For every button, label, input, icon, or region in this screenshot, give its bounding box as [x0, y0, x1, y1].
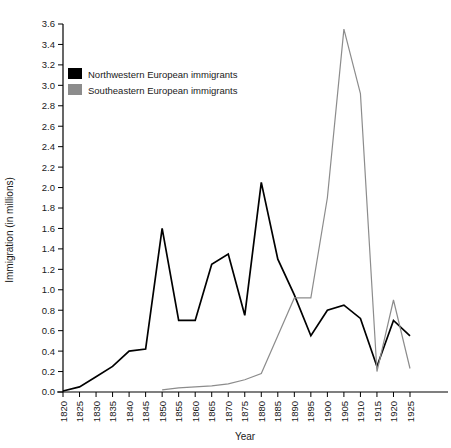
y-axis-tick-label: 2.2 — [42, 162, 55, 173]
x-axis-tick-label: 1835 — [107, 401, 118, 422]
x-axis-title: Year — [235, 431, 256, 442]
x-axis-tick-label: 1875 — [239, 401, 250, 422]
x-axis-tick-label: 1865 — [206, 401, 217, 422]
y-axis-tick-label: 1.6 — [42, 223, 55, 234]
y-axis-tick-label: 0.4 — [42, 346, 55, 357]
x-axis-tick-label: 1825 — [74, 401, 85, 422]
x-axis-tick-label: 1845 — [140, 401, 151, 422]
x-axis-tick-label: 1895 — [305, 401, 316, 422]
x-axis-tick-label: 1855 — [173, 401, 184, 422]
y-axis: 0.00.20.40.60.81.01.21.41.61.82.02.22.42… — [42, 18, 63, 397]
y-axis-tick-label: 3.2 — [42, 59, 55, 70]
x-axis-tick-label: 1900 — [322, 401, 333, 422]
y-axis-tick-label: 3.0 — [42, 80, 55, 91]
y-axis-tick-label: 2.0 — [42, 182, 55, 193]
legend-swatch-1 — [68, 84, 82, 95]
series-line-1 — [162, 29, 410, 390]
x-axis-tick-label: 1830 — [91, 401, 102, 422]
y-axis-tick-label: 1.8 — [42, 202, 55, 213]
x-axis-tick-label: 1870 — [223, 401, 234, 422]
y-axis-tick-label: 0.0 — [42, 386, 55, 397]
series-line-0 — [63, 182, 410, 391]
x-axis-tick-label: 1910 — [355, 401, 366, 422]
x-axis-tick-label: 1920 — [388, 401, 399, 422]
x-axis-tick-label: 1860 — [190, 401, 201, 422]
legend-swatch-0 — [68, 68, 82, 79]
x-axis-tick-label: 1880 — [256, 401, 267, 422]
chart-legend: Northwestern European immigrantsSoutheas… — [68, 68, 238, 96]
y-axis-tick-label: 2.8 — [42, 100, 55, 111]
x-axis-tick-label: 1915 — [372, 401, 383, 422]
x-axis-tick-label: 1820 — [58, 401, 69, 422]
x-axis-tick-label: 1890 — [289, 401, 300, 422]
y-axis-tick-label: 3.4 — [42, 39, 55, 50]
x-axis-tick-label: 1850 — [157, 401, 168, 422]
legend-label-0: Northwestern European immigrants — [88, 69, 238, 80]
y-axis-tick-label: 1.4 — [42, 243, 55, 254]
y-axis-tick-label: 2.6 — [42, 121, 55, 132]
y-axis-tick-label: 1.2 — [42, 264, 55, 275]
immigration-line-chart: 0.00.20.40.60.81.01.21.41.61.82.02.22.42… — [0, 0, 451, 448]
x-axis-tick-label: 1905 — [339, 401, 350, 422]
legend-label-1: Southeastern European immigrants — [88, 85, 238, 96]
y-axis-tick-label: 0.8 — [42, 305, 55, 316]
y-axis-tick-label: 0.2 — [42, 366, 55, 377]
y-axis-tick-label: 0.6 — [42, 325, 55, 336]
x-axis-tick-label: 1885 — [272, 401, 283, 422]
x-axis-tick-label: 1925 — [405, 401, 416, 422]
y-axis-tick-label: 1.0 — [42, 284, 55, 295]
x-axis: 1820182518301835184018451850185518601865… — [57, 392, 448, 422]
data-series-group — [63, 29, 410, 391]
chart-canvas: 0.00.20.40.60.81.01.21.41.61.82.02.22.42… — [0, 0, 451, 448]
y-axis-tick-label: 2.4 — [42, 141, 55, 152]
y-axis-tick-label: 3.6 — [42, 18, 55, 29]
x-axis-tick-label: 1840 — [124, 401, 135, 422]
y-axis-title: Immigration (in millions) — [4, 177, 15, 283]
